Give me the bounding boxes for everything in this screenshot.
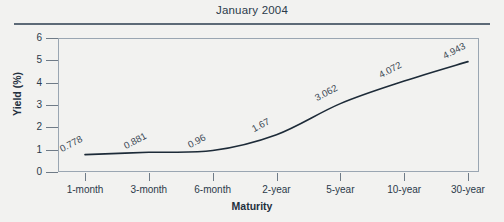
yield-curve-chart: January 2004 Yield (%) 0123456 1-month3-… bbox=[0, 0, 504, 222]
x-axis-title: Maturity bbox=[0, 200, 504, 212]
series-layer bbox=[0, 0, 504, 222]
